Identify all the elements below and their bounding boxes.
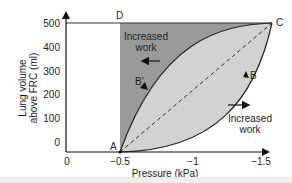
point-label-b-prime: B′ [135, 76, 144, 87]
y-axis-label: Lung volume [17, 59, 28, 117]
bottom-band [0, 177, 292, 183]
x-tick-0: 0 [64, 156, 70, 167]
point-label-b: B [250, 70, 257, 81]
x-tick-neg-1-5: −1.5 [251, 156, 271, 167]
point-label-a: A [110, 141, 117, 152]
y-tick-500: 500 [43, 18, 60, 29]
x-tick-neg-1: −1 [187, 156, 199, 167]
x-axis-arrow-icon [262, 148, 270, 156]
y-axis-arrow-icon [62, 11, 70, 19]
y-axis-label-line2: above FRC (ml) [28, 53, 39, 124]
x-tick-neg-0-5: −0.5 [110, 156, 130, 167]
point-a-marker [118, 150, 121, 153]
annotation-lower-line2: work [238, 124, 261, 135]
annotation-lower-line1: Increased [228, 113, 272, 124]
point-label-c: C [276, 17, 283, 28]
annotation-upper-line2: work [134, 42, 157, 53]
annotation-upper-line1: Increased [124, 31, 168, 42]
y-tick-100: 100 [43, 113, 60, 124]
y-tick-400: 400 [43, 42, 60, 53]
y-tick-300: 300 [43, 66, 60, 77]
y-tick-0: 0 [54, 137, 60, 148]
point-label-d: D [116, 10, 123, 21]
y-tick-200: 200 [43, 89, 60, 100]
pressure-volume-diagram: 500 400 300 200 100 0 0 −0.5 −1 −1.5 Pre… [0, 0, 292, 183]
